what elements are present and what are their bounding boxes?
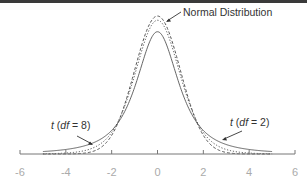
x-tick-label: -6 xyxy=(15,166,25,178)
x-tick-label: -4 xyxy=(61,166,71,178)
x-tick-label: -2 xyxy=(107,166,117,178)
t-df2-close: = 2) xyxy=(248,116,269,128)
t-df2-curve xyxy=(43,32,272,152)
t-df8-label: t (df = 8) xyxy=(51,119,90,131)
t-distribution-chart: -6-4-20246 Normal Distribution t (df = 8… xyxy=(0,0,307,186)
t-df2-arrow-line xyxy=(224,131,242,139)
x-tick-label: 0 xyxy=(154,166,160,178)
x-tick-label: 4 xyxy=(246,166,252,178)
t-df8-close: = 8) xyxy=(69,119,90,131)
t-df8-curve xyxy=(43,20,272,154)
x-tick-label: 2 xyxy=(200,166,206,178)
normal-distribution-label: Normal Distribution xyxy=(183,6,272,18)
x-tick-label: 6 xyxy=(292,166,298,178)
t-df2-label: t (df = 2) xyxy=(230,116,269,128)
